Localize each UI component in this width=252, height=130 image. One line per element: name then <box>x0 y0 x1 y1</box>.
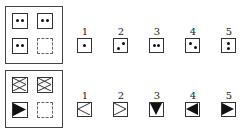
matrix-cell-2 <box>37 77 53 93</box>
option-label: 4 <box>185 27 201 37</box>
option-5[interactable] <box>221 38 236 53</box>
missing-cell <box>37 38 53 54</box>
dot-icon <box>41 19 44 22</box>
dot-icon <box>16 44 19 47</box>
option-label: 2 <box>113 27 129 37</box>
option-3[interactable] <box>149 102 164 117</box>
outline-triangle-right-icon <box>114 103 126 115</box>
dot-icon <box>153 44 156 47</box>
matrix-cell-2 <box>37 13 53 29</box>
option-label: 5 <box>221 27 237 37</box>
option-1[interactable] <box>77 102 92 117</box>
option-label: 1 <box>77 27 93 37</box>
triangles-matrix <box>5 70 63 128</box>
option-label: 3 <box>149 91 165 101</box>
option-1[interactable] <box>77 38 92 53</box>
option-4[interactable] <box>185 102 200 117</box>
matrix-cell-3 <box>12 102 28 118</box>
matrix-cell-1 <box>12 13 28 29</box>
dot-icon <box>117 47 120 50</box>
dot-icon <box>122 42 125 45</box>
option-label: 3 <box>149 27 165 37</box>
dot-icon <box>189 42 192 45</box>
matrix-cell-3 <box>12 38 28 54</box>
option-4[interactable] <box>185 38 200 53</box>
filled-triangle-right-icon <box>222 103 234 115</box>
dot-icon <box>227 42 230 45</box>
dot-icon <box>16 19 19 22</box>
option-label: 4 <box>185 91 201 101</box>
outline-triangle-left-icon <box>78 103 90 115</box>
option-label: 2 <box>113 91 129 101</box>
option-2[interactable] <box>113 102 128 117</box>
crossed-triangles-icon <box>38 78 51 91</box>
matrix-cell-1 <box>12 77 28 93</box>
dot-icon <box>46 19 49 22</box>
option-5[interactable] <box>221 102 236 117</box>
dot-icon <box>21 44 24 47</box>
dot-icon <box>227 47 230 50</box>
filled-triangle-down-icon <box>150 103 162 115</box>
dot-icon <box>157 44 160 47</box>
filled-triangle-right-icon <box>13 103 26 116</box>
crossed-triangles-icon <box>13 78 26 91</box>
option-2[interactable] <box>113 38 128 53</box>
filled-triangle-left-icon <box>186 103 198 115</box>
dots-matrix <box>5 6 63 64</box>
dot-icon <box>83 44 86 47</box>
dot-icon <box>194 46 197 49</box>
option-label: 5 <box>221 91 237 101</box>
option-3[interactable] <box>149 38 164 53</box>
dot-icon <box>21 19 24 22</box>
option-label: 1 <box>77 91 93 101</box>
missing-cell <box>37 102 53 118</box>
